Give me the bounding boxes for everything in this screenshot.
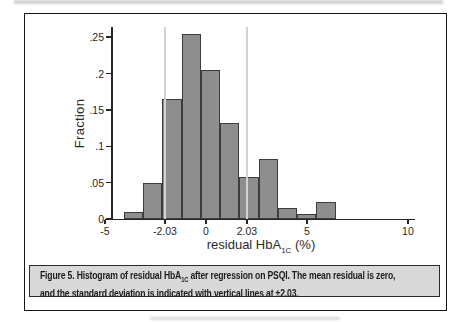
x-axis-title-text: residual HbA: [207, 237, 281, 252]
x-axis-title-unit: (%): [291, 237, 315, 252]
x-axis-tick-label: -5: [100, 225, 109, 237]
x-axis-title: residual HbA1C (%): [121, 237, 401, 255]
x-axis-tick: [306, 220, 308, 225]
x-axis-title-subscript: 1C: [281, 246, 291, 255]
x-axis-tick-label: -2.03: [153, 225, 177, 237]
x-axis-tick-label: 10: [402, 225, 414, 237]
y-axis-line: [111, 27, 113, 219]
x-axis-tick: [407, 220, 409, 225]
x-axis-tick: [164, 220, 166, 225]
histogram-bar: [220, 123, 239, 219]
y-axis-tick: [106, 73, 112, 75]
y-axis-tick: [106, 109, 112, 111]
caption-line1-subscript: 1C: [181, 276, 188, 283]
figure-caption: Figure 5. Histogram of residual HbA1C af…: [29, 265, 440, 297]
x-axis-tick-label: 0: [203, 225, 209, 237]
y-axis-tick: [106, 182, 112, 184]
y-axis-tick-label: .15: [89, 104, 104, 116]
histogram-bar: [316, 202, 335, 219]
x-axis-tick: [246, 220, 248, 225]
caption-line1-suffix: after regression on PSQI. The mean resid…: [188, 269, 395, 281]
histogram-bar: [143, 183, 162, 219]
caption-line-1: Figure 5. Histogram of residual HbA1C af…: [40, 269, 359, 287]
histogram-bar: [182, 34, 201, 219]
histogram-bar: [239, 177, 258, 219]
y-axis-tick: [106, 218, 112, 220]
plot-area: 0.05.1.15.2.25-5-2.0302.03510: [103, 27, 413, 219]
y-axis-tick: [106, 36, 112, 38]
scan-artifact-top: [14, 0, 443, 4]
y-axis-tick-label: 0: [98, 213, 104, 225]
scan-artifact-bottom: [150, 317, 340, 320]
x-axis-line: [105, 219, 415, 221]
figure-container: Fraction 0.05.1.15.2.25-5-2.0302.03510 r…: [24, 13, 447, 311]
y-axis-title: Fraction: [72, 98, 87, 150]
caption-line-2: and the standard deviation is indicated …: [40, 287, 359, 297]
histogram-bar: [259, 159, 278, 219]
sd-reference-line: [164, 27, 166, 219]
caption-line1-prefix: Figure 5. Histogram of residual HbA: [40, 269, 181, 281]
x-axis-tick: [104, 220, 106, 225]
y-axis-tick-label: .25: [89, 31, 104, 43]
figure-caption-text: Figure 5. Histogram of residual HbA1C af…: [40, 269, 359, 297]
x-axis-tick-label: 2.03: [237, 225, 257, 237]
sd-reference-line: [246, 27, 248, 219]
y-axis-tick-label: .1: [95, 140, 104, 152]
x-axis-tick: [205, 220, 207, 225]
x-axis-tick-label: 5: [304, 225, 310, 237]
histogram-bar: [201, 70, 220, 219]
histogram-bar: [278, 208, 297, 219]
y-axis-tick-label: .2: [95, 68, 104, 80]
y-axis-tick: [106, 146, 112, 148]
y-axis-tick-label: .05: [89, 177, 104, 189]
